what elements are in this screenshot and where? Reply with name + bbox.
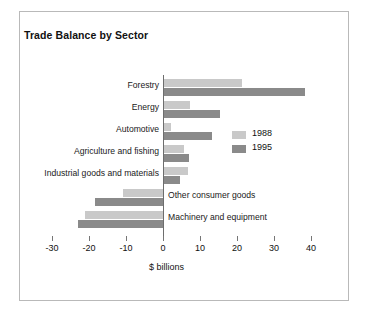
bar-industrial-1988	[164, 167, 188, 175]
x-tick-mark	[311, 236, 312, 241]
bar-energy-1988	[164, 101, 190, 109]
x-tick-label: 0	[148, 243, 178, 253]
bar-group-other-consumer: Other consumer goods	[0, 188, 369, 210]
bar-other-consumer-1995	[95, 198, 163, 206]
bar-group-machinery: Machinery and equipment	[0, 210, 369, 232]
x-tick-label: -20	[74, 243, 104, 253]
category-label-machinery: Machinery and equipment	[168, 212, 348, 222]
category-label-energy: Energy	[35, 102, 159, 112]
x-tick-mark	[163, 236, 164, 241]
bar-group-agriculture: Agriculture and fishing	[0, 144, 369, 166]
x-tick-mark	[126, 236, 127, 241]
x-tick-label: 10	[185, 243, 215, 253]
bar-group-forestry: Forestry	[0, 78, 369, 100]
bar-group-automotive: Automotive	[0, 122, 369, 144]
category-label-agriculture: Agriculture and fishing	[35, 146, 159, 156]
category-label-automotive: Automotive	[35, 124, 159, 134]
x-tick-label: 40	[296, 243, 326, 253]
bar-group-energy: Energy	[0, 100, 369, 122]
legend-label-1995: 1995	[252, 142, 272, 152]
x-tick-mark	[274, 236, 275, 241]
bar-agriculture-1995	[164, 154, 189, 162]
bar-energy-1995	[164, 110, 220, 118]
bar-group-industrial: Industrial goods and materials	[0, 166, 369, 188]
legend-label-1988: 1988	[252, 128, 272, 138]
bar-automotive-1988	[164, 123, 171, 131]
x-tick-mark	[237, 236, 238, 241]
x-tick-label: 30	[259, 243, 289, 253]
x-tick-label: 20	[222, 243, 252, 253]
bar-machinery-1995	[78, 220, 163, 228]
x-tick-mark	[52, 236, 53, 241]
x-axis-title: $ billions	[149, 262, 184, 272]
bar-industrial-1995	[164, 176, 180, 184]
bar-forestry-1988	[164, 79, 242, 87]
x-tick-label: -10	[111, 243, 141, 253]
x-axis-title-wrap: $ billions	[0, 262, 369, 272]
x-tick-mark	[89, 236, 90, 241]
category-label-forestry: Forestry	[35, 80, 159, 90]
legend: 1988 1995	[232, 128, 302, 156]
bar-forestry-1995	[164, 88, 305, 96]
category-label-industrial: Industrial goods and materials	[20, 168, 159, 178]
category-label-other-consumer: Other consumer goods	[168, 190, 348, 200]
bar-machinery-1988	[85, 211, 163, 219]
x-tick-label: -30	[37, 243, 67, 253]
legend-swatch-1995	[232, 145, 246, 153]
bar-other-consumer-1988	[123, 189, 163, 197]
legend-swatch-1988	[232, 131, 246, 139]
bar-automotive-1995	[164, 132, 212, 140]
legend-item-1988: 1988	[232, 128, 302, 142]
x-tick-mark	[200, 236, 201, 241]
legend-item-1995: 1995	[232, 142, 302, 156]
bar-agriculture-1988	[164, 145, 184, 153]
